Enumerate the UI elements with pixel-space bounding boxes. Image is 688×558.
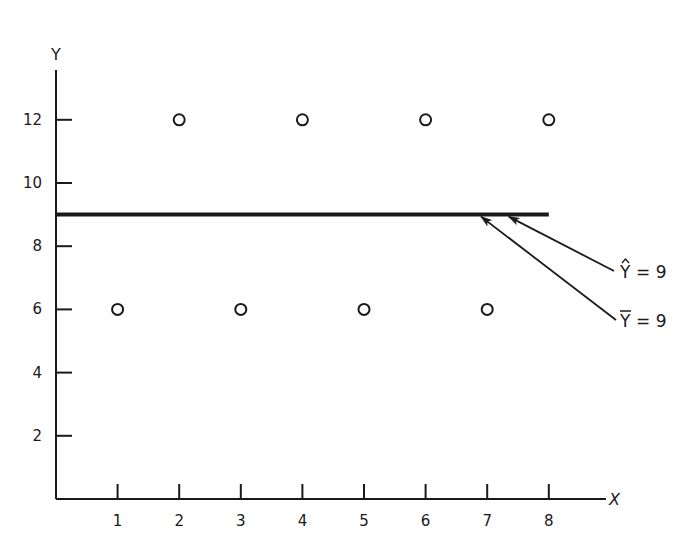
x-tick-label: 8 <box>544 512 554 530</box>
x-tick-label: 4 <box>298 512 308 530</box>
y-tick-label: 6 <box>32 300 42 318</box>
data-point <box>297 114 308 125</box>
scatter-chart: 2468101212345678 Y= 9Y= 9 Y X <box>0 0 688 558</box>
data-point <box>543 114 554 125</box>
data-point <box>112 304 123 315</box>
annotation-symbol: Y <box>619 311 631 331</box>
x-tick-label: 1 <box>113 512 123 530</box>
x-tick-label: 7 <box>482 512 492 530</box>
annotation-value: = 9 <box>636 311 666 331</box>
tick-labels: 2468101212345678 <box>23 111 554 530</box>
annotation-symbol: Y <box>619 262 631 282</box>
y-axis-title: Y <box>50 45 61 64</box>
data-point <box>174 114 185 125</box>
data-point <box>235 304 246 315</box>
annotation-label: Y= 9 <box>619 259 666 282</box>
y-tick-label: 4 <box>32 364 42 382</box>
y-tick-label: 2 <box>32 427 42 445</box>
x-tick-label: 3 <box>236 512 246 530</box>
x-tick-label: 5 <box>359 512 369 530</box>
annotation-label: Y= 9 <box>619 311 666 331</box>
data-point <box>359 304 370 315</box>
x-axis-title: X <box>608 490 621 509</box>
annotation-arrow <box>509 217 614 271</box>
annotations: Y= 9Y= 9 <box>481 217 666 331</box>
annotation-value: = 9 <box>636 262 666 282</box>
y-tick-label: 10 <box>23 174 42 192</box>
y-tick-label: 8 <box>32 237 42 255</box>
x-tick-label: 6 <box>421 512 431 530</box>
annotation-arrow <box>481 217 616 320</box>
y-tick-label: 12 <box>23 111 42 129</box>
data-point <box>420 114 431 125</box>
x-tick-label: 2 <box>174 512 184 530</box>
ticks <box>56 120 549 499</box>
axes <box>56 70 606 499</box>
data-point <box>482 304 493 315</box>
